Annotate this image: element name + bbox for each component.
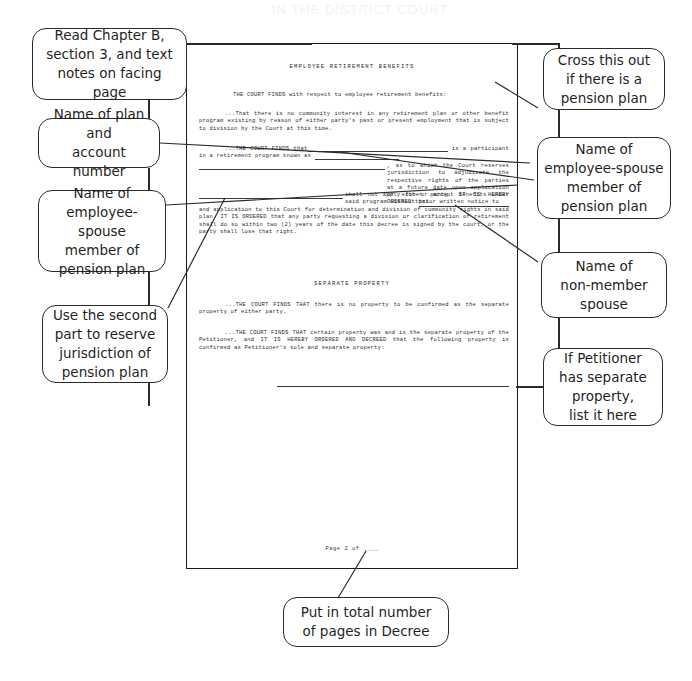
court-document-page: EMPLOYEE RETIREMENT BENEFITS THE COURT F…: [186, 43, 518, 569]
paragraph-participant-retirement-program: ...THE COURT FINDS that is a participant…: [199, 145, 509, 160]
connector-if-petitioner-horizontal: [516, 386, 546, 388]
callout-put-total-pages: Put in total numberof pages in Decree: [283, 597, 449, 647]
connector-right-top-horizontal: [512, 43, 560, 45]
paragraph-text: shall not apply for or accept benefits u…: [345, 191, 509, 205]
paragraph-text: ...That there is no community interest i…: [199, 110, 509, 132]
callout-text: Read Chapter B,section 3, and textnotes …: [39, 26, 180, 102]
callout-name-of-plan: Name of plan andaccount number: [38, 118, 160, 168]
blank-field-plan-member[interactable]: [308, 145, 448, 152]
callout-text: Name ofemployee-spousemember ofpension p…: [544, 140, 664, 216]
ghost-header-text: IN THE DISTRICT COURT: [150, 2, 570, 24]
paragraph-court-finds-intro: THE COURT FINDS with respect to employee…: [207, 91, 507, 98]
blank-field-property-list[interactable]: [277, 386, 509, 387]
paragraph-text: and application to this Court for determ…: [199, 206, 509, 235]
paragraph-no-community-interest: ...That there is no community interest i…: [199, 110, 509, 132]
paragraph-participant-final: and application to this Court for determ…: [199, 206, 509, 235]
blank-field-non-member-spouse[interactable]: [199, 198, 343, 199]
paragraph-text: THE COURT FINDS with respect to employee…: [233, 91, 447, 98]
paragraph-no-separate-property: ...THE COURT FINDS THAT there is no prop…: [199, 301, 509, 316]
callout-text: Name ofnon-memberspouse: [548, 257, 660, 314]
connector-right-spine-2: [558, 219, 560, 252]
section-heading-separate-property: SEPARATE PROPERTY: [187, 280, 517, 287]
callout-text: Name of plan andaccount number: [45, 105, 153, 181]
callout-name-employee-spouse-left: Name ofemployee-spousemember ofpension p…: [38, 190, 166, 272]
connector-right-spine-1: [558, 110, 560, 137]
blank-field-label-1: ...THE COURT FINDS that: [225, 145, 308, 152]
callout-use-second-part: Use the secondpart to reservejurisdictio…: [42, 305, 168, 383]
section-heading-employee-retirement-benefits: EMPLOYEE RETIREMENT BENEFITS: [187, 63, 517, 70]
connector-right-spine-3: [558, 318, 560, 348]
paragraph-text: ...THE COURT FINDS THAT there is no prop…: [199, 301, 509, 315]
callout-text: Cross this outif there is apension plan: [550, 51, 658, 108]
callout-if-petitioner-separate: If Petitionerhas separateproperty,list i…: [543, 348, 663, 426]
callout-text: Use the secondpart to reservejurisdictio…: [49, 306, 161, 382]
page-footer: Page 2 of ____: [187, 545, 517, 552]
callout-text: Name ofemployee-spousemember ofpension p…: [45, 184, 159, 279]
paragraph-participant-continued-b: [199, 169, 509, 191]
annotated-document-page: IN THE DISTRICT COURT EMPLOYEE RETIREMEN…: [0, 0, 692, 681]
callout-cross-this-out: Cross this outif there is apension plan: [543, 48, 665, 110]
callout-read-chapter: Read Chapter B,section 3, and textnotes …: [32, 28, 187, 100]
paragraph-petitioner-separate-property: ...THE COURT FINDS THAT certain property…: [199, 329, 509, 351]
connector-read-chapter-horizontal: [182, 43, 312, 45]
paragraph-shall-not-apply: shall not apply for or accept benefits u…: [345, 191, 509, 206]
callout-text: Put in total numberof pages in Decree: [290, 603, 442, 641]
callout-name-non-member-spouse: Name ofnon-memberspouse: [541, 252, 667, 318]
callout-name-employee-spouse-right: Name ofemployee-spousemember ofpension p…: [537, 137, 671, 219]
blank-field-plan-name[interactable]: [315, 153, 399, 160]
callout-text: If Petitionerhas separateproperty,list i…: [550, 349, 656, 425]
paragraph-text: ...THE COURT FINDS THAT certain property…: [199, 329, 509, 351]
